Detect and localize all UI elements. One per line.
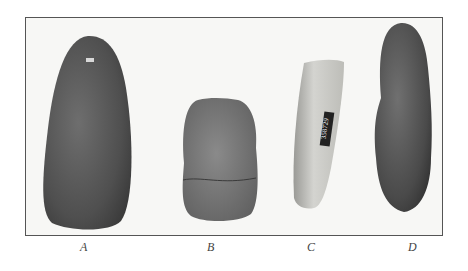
artifacts-photo: 358729 (26, 18, 443, 236)
specimen-a (43, 36, 131, 230)
specimen-c: 358729 (293, 60, 344, 209)
label-a: A (80, 240, 87, 255)
label-c: C (307, 240, 315, 255)
specimen-d (375, 23, 432, 212)
specimen-b (183, 98, 258, 221)
label-d: D (408, 240, 417, 255)
label-b: B (207, 240, 214, 255)
photo-plate: 358729 (25, 17, 443, 236)
